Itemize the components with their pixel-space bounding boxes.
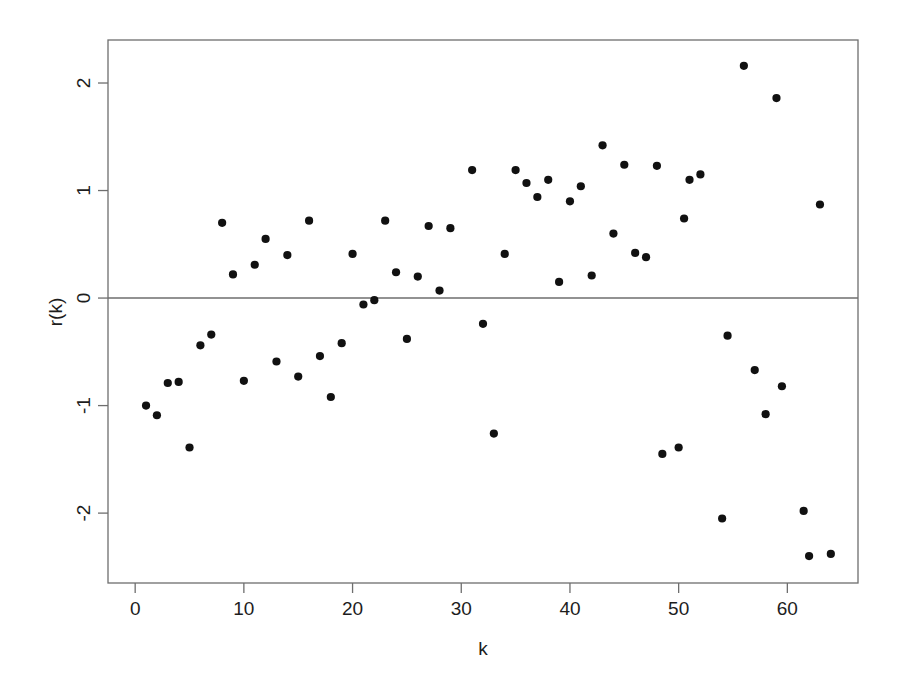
data-point	[305, 217, 313, 225]
y-axis-ticks: 210-1-2	[73, 78, 108, 522]
x-tick-label: 20	[342, 598, 363, 619]
data-point	[185, 443, 193, 451]
data-point	[446, 224, 454, 232]
data-point	[772, 94, 780, 102]
data-point	[240, 377, 248, 385]
data-point	[800, 507, 808, 515]
y-axis-title: r(k)	[45, 298, 66, 326]
plot-frame	[108, 40, 858, 583]
data-points-group	[142, 62, 835, 561]
data-point	[675, 443, 683, 451]
data-point	[609, 229, 617, 237]
data-point	[751, 366, 759, 374]
data-point	[512, 166, 520, 174]
data-point	[642, 253, 650, 261]
data-point	[229, 270, 237, 278]
data-point	[262, 235, 270, 243]
data-point	[533, 193, 541, 201]
data-point	[490, 429, 498, 437]
x-tick-label: 40	[559, 598, 580, 619]
x-tick-label: 30	[451, 598, 472, 619]
y-tick-label: 2	[73, 78, 94, 89]
data-point	[778, 382, 786, 390]
data-point	[370, 296, 378, 304]
data-point	[468, 166, 476, 174]
data-point	[196, 341, 204, 349]
data-point	[566, 197, 574, 205]
data-point	[522, 179, 530, 187]
data-point	[294, 372, 302, 380]
y-tick-label: 1	[73, 185, 94, 196]
x-axis-title: k	[478, 638, 488, 659]
x-tick-label: 0	[130, 598, 141, 619]
data-point	[555, 278, 563, 286]
data-point	[577, 182, 585, 190]
data-point	[251, 261, 259, 269]
x-tick-label: 50	[668, 598, 689, 619]
data-point	[348, 250, 356, 258]
data-point	[805, 552, 813, 560]
data-point	[272, 357, 280, 365]
data-point	[827, 550, 835, 558]
data-point	[316, 352, 324, 360]
scatter-plot-figure: 0102030405060 210-1-2 k r(k)	[0, 0, 902, 680]
data-point	[218, 219, 226, 227]
data-point	[359, 300, 367, 308]
data-point	[207, 331, 215, 339]
data-point	[501, 250, 509, 258]
data-point	[403, 335, 411, 343]
data-point	[598, 141, 606, 149]
plot-canvas: 0102030405060 210-1-2 k r(k)	[0, 0, 902, 680]
data-point	[620, 161, 628, 169]
data-point	[327, 393, 335, 401]
data-point	[658, 450, 666, 458]
data-point	[175, 378, 183, 386]
data-point	[425, 222, 433, 230]
data-point	[816, 200, 824, 208]
data-point	[283, 251, 291, 259]
data-point	[653, 162, 661, 170]
y-tick-label: -2	[73, 505, 94, 522]
data-point	[723, 332, 731, 340]
data-point	[392, 268, 400, 276]
data-point	[338, 339, 346, 347]
data-point	[588, 271, 596, 279]
data-point	[479, 320, 487, 328]
y-tick-label: 0	[73, 293, 94, 304]
data-point	[685, 176, 693, 184]
data-point	[381, 217, 389, 225]
data-point	[414, 272, 422, 280]
data-point	[718, 514, 726, 522]
data-point	[164, 379, 172, 387]
x-tick-label: 60	[777, 598, 798, 619]
data-point	[153, 411, 161, 419]
data-point	[544, 176, 552, 184]
x-tick-label: 10	[233, 598, 254, 619]
data-point	[631, 249, 639, 257]
x-axis-ticks: 0102030405060	[130, 583, 798, 619]
data-point	[435, 286, 443, 294]
data-point	[740, 62, 748, 70]
data-point	[696, 170, 704, 178]
data-point	[762, 410, 770, 418]
data-point	[142, 401, 150, 409]
y-tick-label: -1	[73, 397, 94, 414]
data-point	[680, 214, 688, 222]
